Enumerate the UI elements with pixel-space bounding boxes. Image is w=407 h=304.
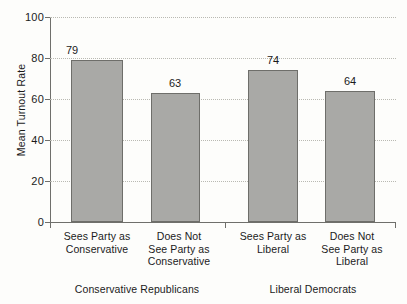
x-tick-label-4-line2: See Party as bbox=[307, 243, 397, 256]
bar-value-1: 79 bbox=[51, 44, 93, 56]
bar-value-4: 64 bbox=[329, 75, 371, 87]
y-tick-label-80: 80 bbox=[31, 53, 44, 64]
group-label-conservative-republicans: Conservative Republicans bbox=[57, 283, 217, 295]
gridline-80 bbox=[50, 58, 396, 59]
y-axis-title: Mean Turnout Rate bbox=[15, 30, 27, 190]
bar-chart: Mean Turnout Rate 100 80 60 40 20 0 79 6… bbox=[0, 0, 407, 304]
y-tick-label-0: 0 bbox=[38, 217, 44, 228]
x-tick-label-1-line2: Conservative bbox=[52, 243, 142, 256]
plot-area bbox=[50, 17, 396, 222]
x-tick-label-2-line1: Does Not bbox=[132, 230, 226, 243]
x-tick-label-3-line2: Liberal bbox=[228, 243, 318, 256]
x-tick-mark-left bbox=[50, 222, 51, 228]
y-tick-label-100: 100 bbox=[25, 12, 44, 23]
bar-sees-party-as-conservative bbox=[71, 60, 123, 222]
x-tick-label-2-line3: Conservative bbox=[132, 255, 226, 268]
x-tick-mark-right bbox=[395, 222, 396, 228]
group-label-liberal-democrats: Liberal Democrats bbox=[243, 283, 383, 295]
x-tick-label-2: Does Not See Party as Conservative bbox=[132, 230, 226, 268]
x-tick-label-1: Sees Party as Conservative bbox=[52, 230, 142, 255]
x-tick-label-3-line1: Sees Party as bbox=[228, 230, 318, 243]
x-tick-label-2-line2: See Party as bbox=[132, 243, 226, 256]
bar-does-not-see-party-as-liberal bbox=[325, 91, 375, 222]
bar-value-3: 74 bbox=[252, 54, 294, 66]
x-tick-label-4-line1: Does Not bbox=[307, 230, 397, 243]
bar-value-2: 63 bbox=[154, 77, 196, 89]
x-tick-mark-middle bbox=[225, 222, 226, 228]
x-axis-line bbox=[50, 222, 396, 223]
x-tick-label-1-line1: Sees Party as bbox=[52, 230, 142, 243]
bar-does-not-see-party-as-conservative bbox=[151, 93, 200, 222]
y-tick-label-60: 60 bbox=[31, 94, 44, 105]
y-tick-label-20: 20 bbox=[31, 176, 44, 187]
y-tick-label-40: 40 bbox=[31, 135, 44, 146]
x-tick-label-3: Sees Party as Liberal bbox=[228, 230, 318, 255]
gridline-100 bbox=[50, 17, 396, 18]
bar-sees-party-as-liberal bbox=[248, 70, 298, 222]
x-tick-label-4: Does Not See Party as Liberal bbox=[307, 230, 397, 268]
x-tick-label-4-line3: Liberal bbox=[307, 255, 397, 268]
